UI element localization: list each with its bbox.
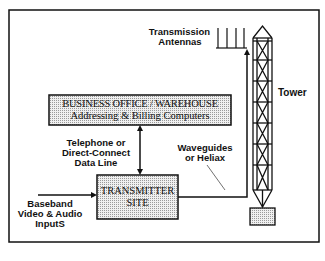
transmitter-site-text: TRANSMITTER SITE	[97, 185, 178, 209]
transmitter-title: TRANSMITTER	[97, 185, 178, 197]
waveguides-label: Waveguides or Heliax	[173, 143, 237, 163]
tower-base	[250, 208, 275, 225]
telephone-label-line3: Data Line	[58, 158, 134, 168]
business-office-text: BUSINESS OFFICE / WAREHOUSE Addressing &…	[49, 98, 231, 122]
antennas-label: Transmission Antennas	[140, 27, 210, 47]
inputs-label-line3: InputS	[12, 219, 88, 229]
data-line-arrow	[137, 125, 143, 175]
tower-icon	[253, 26, 272, 207]
inputs-label: Baseband Video & Audio InputS	[12, 199, 88, 229]
tower-label: Tower	[278, 88, 307, 98]
telephone-label: Telephone or Direct-Connect Data Line	[58, 138, 134, 168]
transmission-antennas-icon	[216, 28, 247, 48]
tower-label-text: Tower	[278, 87, 307, 98]
waveguide-pointer	[207, 165, 225, 190]
business-office-subtitle: Addressing & Billing Computers	[49, 110, 231, 122]
antennas-label-line2: Antennas	[140, 37, 210, 47]
transmitter-subtitle: SITE	[97, 197, 178, 209]
waveguides-label-line2: or Heliax	[173, 153, 237, 163]
business-office-title: BUSINESS OFFICE / WAREHOUSE	[49, 98, 231, 110]
